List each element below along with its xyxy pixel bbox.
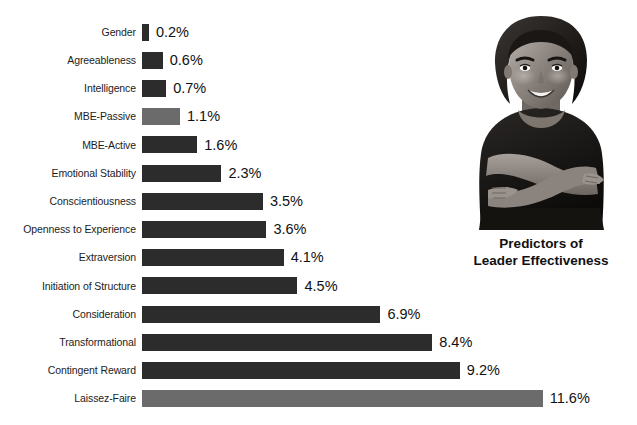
bar-value-label: 1.6% (197, 138, 237, 153)
category-label: Contingent Reward (0, 365, 142, 376)
bar (142, 249, 284, 266)
bar-row: Contingent Reward9.2% (0, 357, 637, 383)
category-label: MBE-Active (0, 140, 142, 151)
person-photo (452, 8, 630, 230)
bar-value-label: 0.7% (166, 81, 206, 96)
category-label: Transformational (0, 337, 142, 348)
category-label: Extraversion (0, 252, 142, 263)
category-label: Emotional Stability (0, 168, 142, 179)
category-label: Agreeableness (0, 55, 142, 66)
bar (142, 193, 263, 210)
bar (142, 221, 266, 238)
bar-value-label: 4.5% (297, 279, 337, 294)
bar-value-label: 2.3% (221, 166, 261, 181)
category-label: Openness to Experience (0, 224, 142, 235)
category-label: Laissez-Faire (0, 393, 142, 404)
bar-value-label: 0.2% (149, 25, 189, 40)
bar-value-label: 6.9% (380, 307, 420, 322)
bar (142, 24, 149, 41)
bar (142, 362, 460, 379)
bar-track: 6.9% (142, 301, 637, 327)
category-label: MBE-Passive (0, 111, 142, 122)
bar (142, 277, 297, 294)
bar-track: 8.4% (142, 329, 637, 355)
category-label: Gender (0, 27, 142, 38)
bar-row: Consideration6.9% (0, 301, 637, 327)
bar-value-label: 0.6% (163, 53, 203, 68)
chart-title-line-1: Predictors of (452, 236, 630, 253)
bar (142, 136, 197, 153)
bar-row: Transformational8.4% (0, 329, 637, 355)
bar-row: Laissez-Faire11.6% (0, 386, 637, 412)
bar (142, 165, 221, 182)
bar-value-label: 3.5% (263, 194, 303, 209)
bar-value-label: 4.1% (284, 250, 324, 265)
category-label: Intelligence (0, 83, 142, 94)
bar (142, 108, 180, 125)
bar (142, 390, 543, 407)
bar (142, 306, 380, 323)
bar-track: 11.6% (142, 386, 637, 412)
category-label: Initiation of Structure (0, 281, 142, 292)
category-label: Conscientiousness (0, 196, 142, 207)
bar-value-label: 11.6% (543, 391, 590, 406)
bar (142, 52, 163, 69)
bar-value-label: 8.4% (432, 335, 472, 350)
category-label: Consideration (0, 309, 142, 320)
bar (142, 80, 166, 97)
bar-track: 9.2% (142, 357, 637, 383)
bar-value-label: 1.1% (180, 109, 220, 124)
photo-block: Predictors of Leader Effectiveness (452, 8, 630, 283)
bar (142, 334, 432, 351)
chart-title: Predictors of Leader Effectiveness (452, 236, 630, 270)
bar-value-label: 3.6% (266, 222, 306, 237)
bar-value-label: 9.2% (460, 363, 500, 378)
chart-title-line-2: Leader Effectiveness (452, 253, 630, 270)
